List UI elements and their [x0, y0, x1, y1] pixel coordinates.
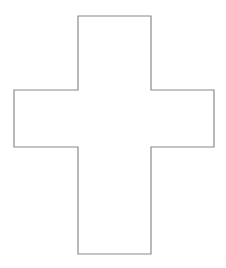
cross-diagram [0, 0, 226, 268]
